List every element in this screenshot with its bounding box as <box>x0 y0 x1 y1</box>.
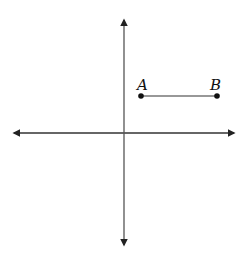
coordinate-plane: A B <box>0 0 244 255</box>
point-a <box>138 93 144 99</box>
label-a: A <box>135 76 148 94</box>
label-b: B <box>209 76 221 94</box>
point-b <box>214 93 220 99</box>
